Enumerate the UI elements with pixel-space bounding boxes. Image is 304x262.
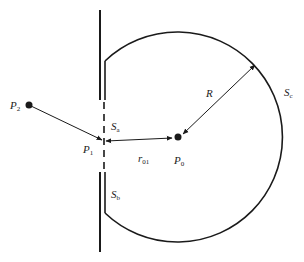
label-sa: Sa <box>111 121 120 134</box>
radius-r-arrow <box>183 65 255 134</box>
label-sc: Sc <box>284 87 293 100</box>
label-p0: P0 <box>174 155 184 168</box>
label-p2: P2 <box>10 100 20 113</box>
label-sb: Sb <box>111 189 120 202</box>
ray-p2-p1 <box>31 106 102 140</box>
label-r01: r01 <box>138 153 149 166</box>
distance-r01-arrow <box>106 138 172 141</box>
diffraction-diagram <box>0 0 304 262</box>
point-p0 <box>175 134 182 141</box>
label-p1: P1 <box>83 144 93 157</box>
point-p2 <box>26 102 33 109</box>
surface-sc-arc <box>105 32 282 242</box>
label-r: R <box>206 88 213 99</box>
